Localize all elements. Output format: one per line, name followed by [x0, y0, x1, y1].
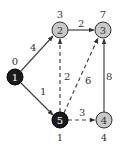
- weight-4-3: 8: [106, 71, 112, 82]
- graph-diagram: 4 1 2 2 6 3 8 1 0 2 3 3 7 4 4 5 1: [0, 0, 120, 147]
- weight-5-3: 6: [85, 75, 91, 86]
- node-5: 5 1: [52, 112, 68, 143]
- node-1: 1 0: [7, 56, 23, 85]
- weight-5-2: 2: [64, 71, 70, 82]
- node-4-dist: 4: [101, 132, 107, 143]
- weight-2-3: 2: [78, 18, 84, 29]
- node-5-dist: 1: [57, 132, 63, 143]
- node-1-dist: 0: [12, 56, 18, 67]
- weight-1-2: 4: [30, 42, 36, 53]
- weight-1-5: 1: [40, 86, 46, 97]
- node-3: 3 7: [95, 9, 111, 38]
- node-1-label: 1: [12, 72, 18, 83]
- node-2-label: 2: [57, 25, 63, 36]
- node-3-dist: 7: [100, 9, 106, 20]
- edge-1-5: [21, 83, 53, 115]
- node-2: 2 3: [52, 9, 68, 38]
- edge-1-2: [21, 36, 53, 71]
- weight-5-4: 3: [79, 107, 85, 118]
- node-4: 4 4: [96, 112, 112, 143]
- node-2-dist: 3: [57, 9, 63, 20]
- node-5-label: 5: [57, 115, 63, 126]
- node-3-label: 3: [100, 25, 106, 36]
- node-4-label: 4: [101, 115, 107, 126]
